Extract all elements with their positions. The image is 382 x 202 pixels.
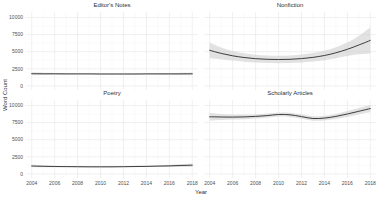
x-tick-label: 2018	[187, 180, 198, 186]
x-tick-label: 2012	[118, 180, 129, 186]
x-tick-label: 2010	[273, 180, 284, 186]
x-tick-label: 2004	[26, 180, 37, 186]
x-tick-label: 2016	[164, 180, 175, 186]
x-tick-label: 2010	[95, 180, 106, 186]
x-tick-label: 2008	[72, 180, 83, 186]
chart-canvas: Editor's Notes025005000750010000Nonficti…	[0, 0, 382, 202]
facet-title-poetry: Poetry	[103, 90, 120, 96]
y-tick-label: 2500	[12, 154, 23, 160]
x-tick-label: 2014	[319, 180, 330, 186]
y-tick-label: 0	[20, 171, 23, 177]
x-tick-label: 2008	[250, 180, 261, 186]
y-tick-label: 5000	[12, 48, 23, 54]
x-tick-label: 2018	[365, 180, 376, 186]
y-tick-label: 7500	[12, 31, 23, 37]
x-tick-label: 2012	[296, 180, 307, 186]
x-tick-label: 2014	[141, 180, 152, 186]
chart-panels: Editor's Notes025005000750010000Nonficti…	[0, 0, 382, 202]
x-tick-label: 2004	[204, 180, 215, 186]
facet-title-editor-s-notes: Editor's Notes	[93, 2, 130, 8]
facet-title-nonfiction: Nonfiction	[277, 2, 304, 8]
faceted-line-chart: Editor's Notes025005000750010000Nonficti…	[0, 0, 382, 202]
x-axis-label: Year	[195, 189, 207, 195]
y-tick-label: 7500	[12, 119, 23, 125]
y-tick-label: 10000	[9, 14, 23, 20]
y-tick-label: 10000	[9, 102, 23, 108]
y-axis-label: Word Count	[2, 79, 8, 111]
y-tick-label: 2500	[12, 66, 23, 72]
x-tick-label: 2006	[49, 180, 60, 186]
x-tick-label: 2006	[227, 180, 238, 186]
y-tick-label: 5000	[12, 136, 23, 142]
x-tick-label: 2016	[342, 180, 353, 186]
y-tick-label: 0	[20, 83, 23, 89]
facet-title-scholarly-articles: Scholarly Articles	[267, 90, 313, 96]
